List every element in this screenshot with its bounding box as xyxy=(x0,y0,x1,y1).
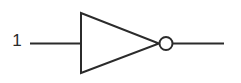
input-pin-label: 1 xyxy=(8,30,26,52)
logic-gate-canvas xyxy=(0,0,241,83)
not-gate-diagram: 1 xyxy=(0,0,241,83)
inversion-bubble-icon xyxy=(160,37,173,50)
not-gate-triangle xyxy=(81,13,159,73)
